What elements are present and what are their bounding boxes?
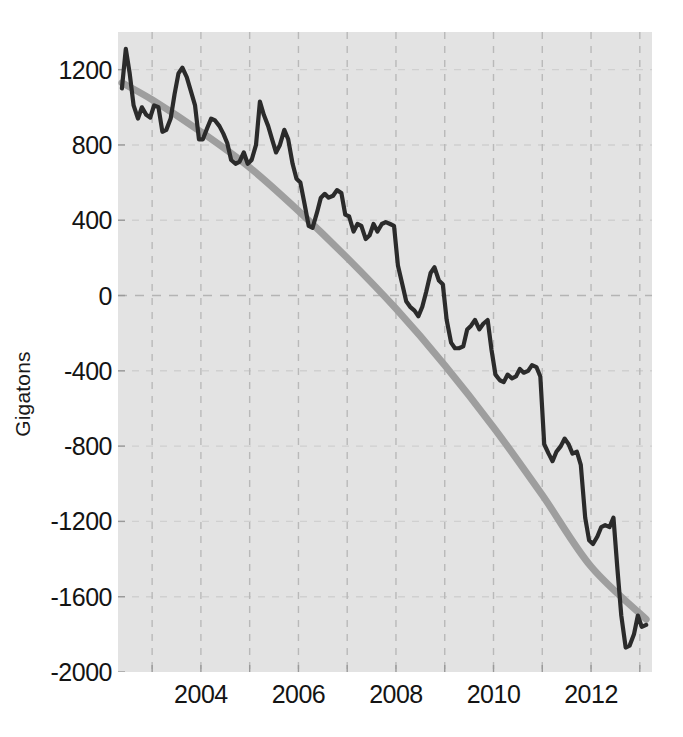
data-line: [122, 49, 646, 648]
x-tick-label: 2004: [174, 680, 228, 709]
y-tick-label: -800: [2, 432, 112, 461]
plot-svg: [118, 32, 652, 672]
y-tick-label: 800: [2, 130, 112, 159]
x-tick-label: 2008: [369, 680, 423, 709]
x-tick-label: 2006: [272, 680, 326, 709]
y-tick-label: 0: [2, 281, 112, 310]
x-tick-label: 2012: [564, 680, 618, 709]
x-axis-tick-labels: 20042006200820102012: [0, 680, 683, 728]
chart-figure: Gigatons 12008004000-400-800-1200-1600-2…: [0, 0, 683, 737]
y-tick-label: -400: [2, 356, 112, 385]
y-tick-label: 400: [2, 206, 112, 235]
y-tick-label: -1600: [2, 582, 112, 611]
vertical-gridlines: [152, 32, 640, 672]
plot-area: [118, 32, 652, 672]
axis-tick-marks: [118, 70, 640, 672]
y-axis-tick-labels: 12008004000-400-800-1200-1600-2000: [0, 0, 112, 737]
y-tick-label: 1200: [2, 55, 112, 84]
x-tick-label: 2010: [467, 680, 521, 709]
y-tick-label: -1200: [2, 507, 112, 536]
horizontal-gridlines: [118, 70, 652, 597]
